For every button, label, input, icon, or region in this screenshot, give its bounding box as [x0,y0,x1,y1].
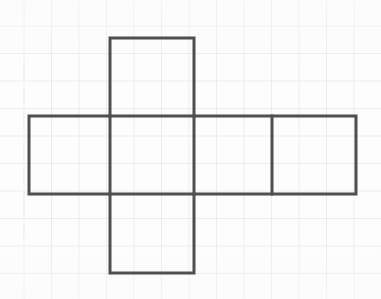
face-right-inner-square [194,116,272,194]
figure-canvas: Cube net (cross / Latin-cross arrangemen… [0,0,381,299]
cube-net-figure: Cube net (cross / Latin-cross arrangemen… [0,0,381,299]
face-bottom-square [110,194,194,273]
face-center-square [110,116,194,194]
face-top-square [110,38,194,116]
face-right-outer-square [272,116,356,194]
face-left-square [29,116,110,194]
